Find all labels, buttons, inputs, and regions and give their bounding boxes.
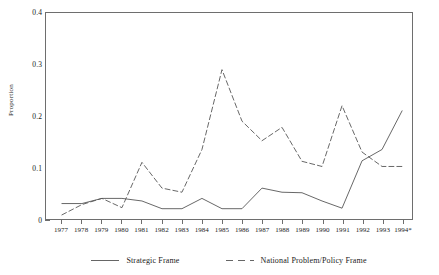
- y-axis-tick-label: 0.3: [32, 60, 42, 69]
- y-axis-tick-labels: 00.10.20.30.4: [18, 12, 42, 220]
- x-axis-tick-label: 1990: [315, 226, 329, 234]
- series-line-national-problem-policy-frame: [62, 70, 402, 215]
- y-axis-tick-label: 0.2: [32, 112, 42, 121]
- x-axis-tick-label: 1985: [215, 226, 229, 234]
- x-axis-tick-mark: [61, 220, 62, 224]
- x-axis-tick-mark: [363, 220, 364, 224]
- x-axis-tick-mark: [101, 220, 102, 224]
- x-axis-tick-label: 1982: [154, 226, 168, 234]
- x-axis-tick-mark: [182, 220, 183, 224]
- x-axis-tick-mark: [323, 220, 324, 224]
- x-axis-tick-mark: [262, 220, 263, 224]
- y-axis-tick-label: 0: [38, 216, 42, 225]
- x-axis-tick-labels: 1977197819791980198119821983198419851986…: [45, 226, 413, 238]
- x-axis-tick-mark: [403, 220, 404, 224]
- y-axis-tick-label: 0.4: [32, 8, 42, 17]
- x-axis-tick-label: 1989: [295, 226, 309, 234]
- x-axis-tick-mark: [222, 220, 223, 224]
- legend-label-strategic-frame: Strategic Frame: [126, 256, 179, 265]
- x-axis-tick-label: 1992: [356, 226, 370, 234]
- chart-legend: Strategic Frame National Problem/Policy …: [45, 252, 413, 268]
- x-axis-tick-label: 1991: [336, 226, 350, 234]
- y-axis-title: Proportion: [7, 70, 15, 130]
- x-axis-tick-mark: [343, 220, 344, 224]
- x-axis-tick-label: 1986: [235, 226, 249, 234]
- legend-label-national-problem-policy-frame: National Problem/Policy Frame: [261, 256, 367, 265]
- x-axis-tick-label: 1978: [74, 226, 88, 234]
- x-axis-tick-label: 1979: [94, 226, 108, 234]
- plot-area: [45, 12, 413, 220]
- x-axis-tick-mark: [282, 220, 283, 224]
- x-axis-tick-mark: [383, 220, 384, 224]
- x-axis-tick-mark: [202, 220, 203, 224]
- legend-item-strategic-frame: Strategic Frame: [91, 256, 179, 265]
- x-axis-tick-marks: [45, 220, 413, 225]
- x-axis-tick-label: 1983: [175, 226, 189, 234]
- x-axis-tick-label: 1981: [134, 226, 148, 234]
- x-axis-tick-label: 1988: [275, 226, 289, 234]
- chart-figure: Proportion 00.10.20.30.4 197719781979198…: [0, 0, 439, 275]
- x-axis-tick-mark: [242, 220, 243, 224]
- x-axis-tick-label: 1987: [255, 226, 269, 234]
- x-axis-tick-mark: [162, 220, 163, 224]
- solid-line-swatch-icon: [91, 257, 119, 264]
- x-axis-tick-mark: [302, 220, 303, 224]
- series-canvas: [46, 13, 412, 219]
- x-axis-tick-mark: [141, 220, 142, 224]
- y-axis-tick-label: 0.1: [32, 164, 42, 173]
- x-axis-tick-label: 1994*: [394, 226, 412, 234]
- x-axis-tick-label: 1984: [195, 226, 209, 234]
- x-axis-tick-label: 1977: [54, 226, 68, 234]
- x-axis-tick-mark: [81, 220, 82, 224]
- x-axis-tick-mark: [121, 220, 122, 224]
- x-axis-tick-label: 1993: [376, 226, 390, 234]
- legend-item-national-problem-policy-frame: National Problem/Policy Frame: [226, 256, 367, 265]
- dashed-line-swatch-icon: [226, 257, 254, 264]
- x-axis-tick-label: 1980: [114, 226, 128, 234]
